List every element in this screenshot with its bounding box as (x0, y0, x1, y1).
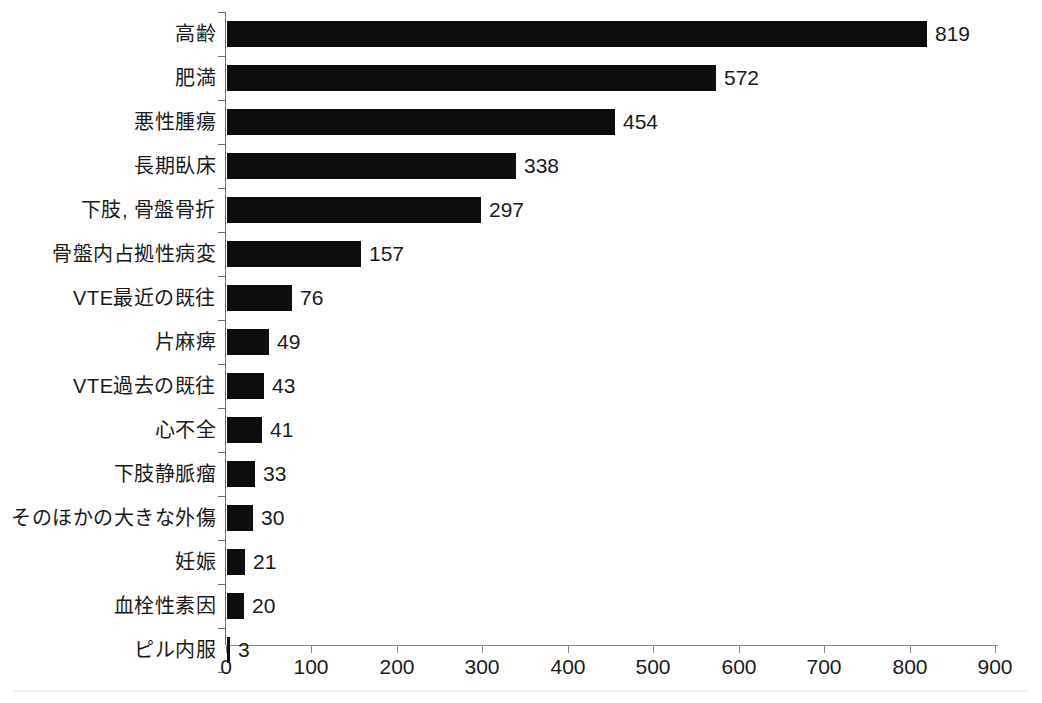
bar-value-label: 157 (369, 232, 404, 276)
bar-row: 悪性腫瘍454 (0, 100, 1042, 144)
category-label: 骨盤内占拠性病変 (52, 232, 216, 276)
bar (227, 593, 244, 619)
y-axis-tick (218, 584, 226, 585)
y-axis-tick (218, 408, 226, 409)
y-axis-tick (218, 232, 226, 233)
category-label: 片麻痺 (155, 320, 217, 364)
y-axis-tick (218, 144, 226, 145)
y-axis-tick (218, 276, 226, 277)
bar (227, 153, 516, 179)
x-axis-tick-label: 500 (635, 655, 670, 679)
category-label: 妊娠 (175, 540, 216, 584)
bar-row: 下肢静脈瘤33 (0, 452, 1042, 496)
x-axis-tick (397, 646, 398, 653)
bar-row: そのほかの大きな外傷30 (0, 496, 1042, 540)
category-label: ピル内服 (134, 628, 216, 672)
y-axis-tick (218, 12, 226, 13)
x-axis-tick-label: 300 (464, 655, 499, 679)
category-label: そのほかの大きな外傷 (11, 496, 216, 540)
bar-value-label: 41 (270, 408, 293, 452)
category-label: 高齢 (175, 12, 216, 56)
category-label: 悪性腫瘍 (134, 100, 216, 144)
bar (227, 285, 292, 311)
x-axis-tick-label: 600 (721, 655, 756, 679)
bar-value-label: 21 (253, 540, 276, 584)
y-axis-tick (218, 628, 226, 629)
y-axis-tick (218, 452, 226, 453)
y-axis-tick (218, 56, 226, 57)
bar-row: 長期臥床338 (0, 144, 1042, 188)
x-axis-tick (482, 646, 483, 653)
x-axis-tick-label: 100 (293, 655, 328, 679)
bar (227, 65, 716, 91)
category-label: VTE過去の既往 (73, 364, 216, 408)
bar (227, 21, 927, 47)
bar (227, 109, 615, 135)
y-axis-tick (218, 188, 226, 189)
x-axis-tick-label: 0 (220, 655, 232, 679)
bar-value-label: 297 (489, 188, 524, 232)
bar (227, 373, 264, 399)
bar (227, 329, 269, 355)
bar-row: VTE最近の既往76 (0, 276, 1042, 320)
bar-row: ピル内服3 (0, 628, 1042, 672)
bar-row: 血栓性素因20 (0, 584, 1042, 628)
category-label: 下肢, 骨盤骨折 (81, 188, 216, 232)
bar-value-label: 454 (623, 100, 658, 144)
bar-row: 高齢819 (0, 12, 1042, 56)
bar (227, 461, 255, 487)
bar-value-label: 20 (252, 584, 275, 628)
x-axis-tick (226, 646, 227, 653)
category-label: VTE最近の既往 (73, 276, 216, 320)
y-axis-tick (218, 496, 226, 497)
x-axis-tick-label: 700 (806, 655, 841, 679)
x-axis-tick (824, 646, 825, 653)
bar-row: 下肢, 骨盤骨折297 (0, 188, 1042, 232)
bar-value-label: 49 (277, 320, 300, 364)
bar-value-label: 30 (261, 496, 284, 540)
y-axis-tick (218, 320, 226, 321)
bar-row: 骨盤内占拠性病変157 (0, 232, 1042, 276)
y-axis-tick (218, 364, 226, 365)
x-axis-tick-label: 200 (379, 655, 414, 679)
x-axis-tick-label: 900 (977, 655, 1012, 679)
bar-row: VTE過去の既往43 (0, 364, 1042, 408)
bar (227, 197, 481, 223)
bar-value-label: 572 (724, 56, 759, 100)
bar-row: 片麻痺49 (0, 320, 1042, 364)
category-label: 長期臥床 (134, 144, 216, 188)
bar (227, 241, 361, 267)
scan-artifact-line (14, 690, 1028, 692)
category-label: 心不全 (155, 408, 217, 452)
bar-value-label: 43 (272, 364, 295, 408)
bar-value-label: 819 (935, 12, 970, 56)
bar-value-label: 33 (263, 452, 286, 496)
x-axis-tick (910, 646, 911, 653)
category-label: 血栓性素因 (114, 584, 217, 628)
bar (227, 417, 262, 443)
x-axis-tick (568, 646, 569, 653)
bar-value-label: 76 (300, 276, 323, 320)
bar-chart: 高齢819肥満572悪性腫瘍454長期臥床338下肢, 骨盤骨折297骨盤内占拠… (0, 0, 1042, 703)
x-axis-tick (311, 646, 312, 653)
x-axis-tick-label: 400 (550, 655, 585, 679)
category-label: 下肢静脈瘤 (114, 452, 217, 496)
y-axis-tick (218, 100, 226, 101)
x-axis-tick (739, 646, 740, 653)
bar-value-label: 3 (238, 628, 250, 672)
bar (227, 549, 245, 575)
bar-row: 肥満572 (0, 56, 1042, 100)
bar-value-label: 338 (524, 144, 559, 188)
x-axis-tick (995, 646, 996, 653)
x-axis-tick (653, 646, 654, 653)
bar (227, 505, 253, 531)
bar-row: 妊娠21 (0, 540, 1042, 584)
y-axis-tick (218, 540, 226, 541)
bar-row: 心不全41 (0, 408, 1042, 452)
x-axis-tick-label: 800 (892, 655, 927, 679)
category-label: 肥満 (175, 56, 216, 100)
